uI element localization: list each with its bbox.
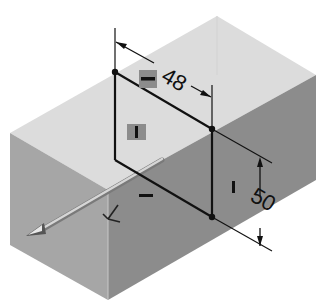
constraint-vertical-badge[interactable] xyxy=(127,124,146,140)
constraint-horizontal-bottom-icon[interactable] xyxy=(139,194,153,197)
dimension-arrowhead xyxy=(116,42,127,49)
cad-viewport[interactable]: 48 50 xyxy=(0,0,323,300)
constraint-horizontal-badge[interactable] xyxy=(139,70,157,88)
dimension-arrowhead xyxy=(257,236,263,246)
constraint-vertical-right-icon[interactable] xyxy=(232,181,235,193)
